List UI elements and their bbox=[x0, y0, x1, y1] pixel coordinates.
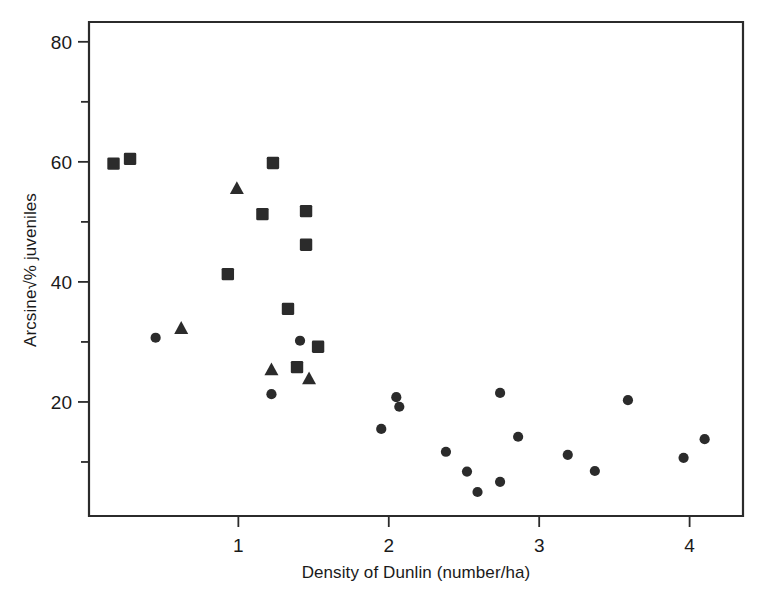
data-point-circle bbox=[495, 388, 505, 398]
data-point-circle bbox=[700, 434, 710, 444]
data-point-circle bbox=[295, 336, 305, 346]
data-point-square bbox=[107, 157, 119, 169]
data-point-square bbox=[256, 208, 268, 220]
y-tick-label-60: 60 bbox=[51, 152, 72, 173]
data-point-square bbox=[124, 153, 136, 165]
scatter-plot-figure: 20406080 1234 Density of Dunlin (number/… bbox=[0, 0, 771, 614]
x-tick-label-3: 3 bbox=[534, 535, 545, 556]
x-tick-label-4: 4 bbox=[684, 535, 695, 556]
data-point-circle bbox=[376, 424, 386, 434]
chart-canvas: 20406080 1234 Density of Dunlin (number/… bbox=[0, 0, 771, 614]
data-point-circle bbox=[590, 466, 600, 476]
data-point-layer bbox=[107, 153, 709, 497]
x-tick-label-2: 2 bbox=[383, 535, 394, 556]
series-squares bbox=[107, 153, 324, 374]
data-point-square bbox=[300, 238, 312, 250]
y-tick-label-40: 40 bbox=[51, 272, 72, 293]
data-point-circle bbox=[462, 466, 472, 476]
data-point-square bbox=[300, 205, 312, 217]
data-point-circle bbox=[513, 432, 523, 442]
data-point-circle bbox=[441, 447, 451, 457]
data-point-circle bbox=[391, 392, 401, 402]
data-point-square bbox=[222, 268, 234, 280]
x-tick-label-1: 1 bbox=[233, 535, 244, 556]
x-axis-ticks bbox=[238, 516, 689, 527]
y-axis-title: Arcsine√% juveniles bbox=[21, 193, 40, 347]
data-point-square bbox=[312, 341, 324, 353]
data-point-triangle bbox=[264, 363, 278, 376]
series-triangles bbox=[174, 181, 316, 384]
data-point-triangle bbox=[174, 321, 188, 334]
data-point-square bbox=[267, 157, 279, 169]
data-point-circle bbox=[151, 333, 161, 343]
x-axis-tick-labels: 1234 bbox=[233, 535, 695, 556]
x-axis-title: Density of Dunlin (number/ha) bbox=[302, 563, 531, 582]
data-point-circle bbox=[623, 395, 633, 405]
series-circles bbox=[151, 333, 710, 497]
y-axis-ticks bbox=[78, 42, 89, 462]
data-point-square bbox=[291, 361, 303, 373]
data-point-circle bbox=[266, 389, 276, 399]
y-axis-tick-labels: 20406080 bbox=[51, 32, 72, 413]
data-point-circle bbox=[495, 477, 505, 487]
data-point-circle bbox=[472, 487, 482, 497]
y-tick-label-80: 80 bbox=[51, 32, 72, 53]
data-point-triangle bbox=[302, 372, 316, 385]
data-point-square bbox=[282, 303, 294, 315]
plot-frame bbox=[89, 22, 743, 516]
y-tick-label-20: 20 bbox=[51, 392, 72, 413]
data-point-triangle bbox=[230, 181, 244, 194]
data-point-circle bbox=[563, 450, 573, 460]
data-point-circle bbox=[394, 402, 404, 412]
data-point-circle bbox=[678, 453, 688, 463]
